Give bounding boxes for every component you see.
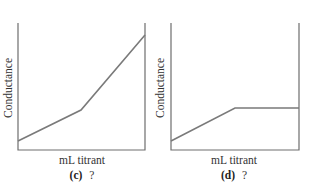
panel-d: Conductance mL titrant (d) ? [154, 23, 299, 182]
figure: Conductance mL titrant (c) ? Conductance… [0, 0, 315, 188]
panel-c-caption: (c) ? [70, 165, 95, 182]
panel-c-curve [18, 35, 145, 141]
panel-d-caption: (d) ? [221, 165, 247, 182]
panel-d-ylabel: Conductance [154, 58, 166, 118]
panel-d-caption-mark: ? [242, 169, 247, 181]
panel-d-caption-label: (d) [221, 169, 235, 182]
panel-c: Conductance mL titrant (c) ? [2, 23, 145, 182]
panel-c-caption-label: (c) [70, 169, 83, 182]
panel-c-caption-mark: ? [89, 169, 94, 181]
panel-c-ylabel: Conductance [2, 58, 14, 118]
panel-d-curve [171, 108, 299, 141]
